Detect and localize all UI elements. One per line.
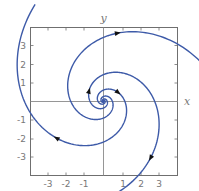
x-tick-label: -1 xyxy=(80,179,89,189)
x-tick-labels: -3 -2 -1 1 2 3 xyxy=(44,179,162,189)
x-tick-label: -2 xyxy=(62,179,71,189)
y-tick-label: 3 xyxy=(20,41,26,51)
y-tick-label: 1 xyxy=(20,78,26,88)
trajectory-arm-a xyxy=(68,32,199,177)
direction-arrow-icon xyxy=(53,134,61,141)
trajectory-arm-c xyxy=(17,4,126,145)
phase-portrait: -3 -2 -1 1 2 3 3 2 1 -1 -2 -3 y x xyxy=(0,0,199,191)
y-tick-label: -3 xyxy=(17,152,26,162)
y-tick-label: -2 xyxy=(17,134,26,144)
trajectory-arm-b xyxy=(0,72,159,191)
x-tick-label: -3 xyxy=(44,179,53,189)
direction-arrow-icon xyxy=(147,154,154,162)
x-tick-label: 3 xyxy=(156,179,162,189)
x-tick-label: 2 xyxy=(138,179,144,189)
x-axis-title: x xyxy=(184,95,191,108)
trajectories xyxy=(0,4,199,191)
y-tick-label: -1 xyxy=(17,115,26,125)
y-axis-title: y xyxy=(99,12,107,25)
y-tick-label: 2 xyxy=(20,60,26,70)
